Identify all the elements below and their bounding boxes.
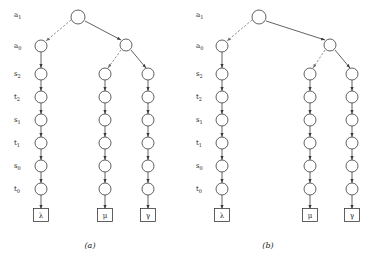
mid-chain-node-s2[interactable] bbox=[99, 68, 111, 80]
figure-container: λμγa1a0s2t2s1t1s0t0(a)λμγa1a0s2t2s1t1s0t… bbox=[0, 0, 372, 264]
row-label-s2: s2 bbox=[14, 70, 21, 79]
terminal-gamma[interactable]: γ bbox=[141, 209, 156, 222]
edge-right-a0-to-right bbox=[335, 50, 350, 68]
edge-right-a0-to-right bbox=[131, 50, 146, 68]
right-chain-node-s1[interactable] bbox=[346, 114, 358, 126]
right-a0-node[interactable] bbox=[324, 39, 336, 51]
mid-chain-node-t2[interactable] bbox=[99, 91, 111, 103]
terminal-mu[interactable]: μ bbox=[98, 209, 113, 222]
terminal-gamma-label: γ bbox=[146, 212, 150, 220]
row-label-t2: t2 bbox=[196, 93, 202, 102]
left-chain-node-t2[interactable] bbox=[216, 91, 228, 103]
terminal-gamma-label: γ bbox=[350, 212, 354, 220]
right-chain-node-t2[interactable] bbox=[142, 91, 154, 103]
terminal-gamma[interactable]: γ bbox=[345, 209, 360, 222]
row-label-t0: t0 bbox=[14, 185, 20, 194]
edge-root-to-right-a0 bbox=[85, 21, 121, 40]
left-chain-node-s1[interactable] bbox=[216, 114, 228, 126]
terminal-lambda-label: λ bbox=[39, 212, 44, 220]
edge-root-to-right-a0 bbox=[266, 21, 325, 40]
terminal-mu-label: μ bbox=[308, 212, 313, 220]
two-panel-tree-diagram: λμγa1a0s2t2s1t1s0t0(a)λμγa1a0s2t2s1t1s0t… bbox=[0, 0, 372, 264]
row-label-s0: s0 bbox=[196, 162, 203, 171]
left-chain-node-s2[interactable] bbox=[216, 68, 228, 80]
terminal-mu[interactable]: μ bbox=[303, 209, 318, 222]
right-chain-node-s1[interactable] bbox=[142, 114, 154, 126]
mid-chain-node-t1[interactable] bbox=[304, 137, 316, 149]
terminal-lambda[interactable]: λ bbox=[34, 209, 49, 222]
mid-chain-node-s2[interactable] bbox=[304, 68, 316, 80]
root-node[interactable] bbox=[252, 10, 266, 24]
right-chain-node-s0[interactable] bbox=[142, 160, 154, 172]
terminal-lambda[interactable]: λ bbox=[215, 209, 230, 222]
mid-chain-node-t0[interactable] bbox=[304, 183, 316, 195]
edge-root-to-left-a0 bbox=[46, 20, 71, 41]
edge-right-a0-to-mid bbox=[313, 50, 325, 68]
right-a0-node[interactable] bbox=[120, 39, 132, 51]
row-label-s2: s2 bbox=[196, 70, 203, 79]
panel-caption: (b) bbox=[262, 241, 273, 250]
row-label-a0: a0 bbox=[14, 42, 21, 51]
left-chain-node-t1[interactable] bbox=[216, 137, 228, 149]
right-chain-node-t0[interactable] bbox=[346, 183, 358, 195]
terminal-mu-label: μ bbox=[103, 212, 108, 220]
mid-chain-node-s0[interactable] bbox=[99, 160, 111, 172]
edge-right-a0-to-mid bbox=[108, 50, 121, 68]
left-chain-node-s0[interactable] bbox=[35, 160, 47, 172]
left-chain-node-t1[interactable] bbox=[35, 137, 47, 149]
left-chain-node-s2[interactable] bbox=[35, 68, 47, 80]
right-chain-node-t1[interactable] bbox=[346, 137, 358, 149]
right-chain-node-s2[interactable] bbox=[142, 68, 154, 80]
left-chain-node-t0[interactable] bbox=[216, 183, 228, 195]
right-chain-node-t2[interactable] bbox=[346, 91, 358, 103]
left-chain-node-t2[interactable] bbox=[35, 91, 47, 103]
row-label-s1: s1 bbox=[14, 116, 21, 125]
right-chain-node-t0[interactable] bbox=[142, 183, 154, 195]
root-node[interactable] bbox=[71, 10, 85, 24]
row-label-a1: a1 bbox=[14, 11, 21, 20]
mid-chain-node-s1[interactable] bbox=[304, 114, 316, 126]
mid-chain-node-s1[interactable] bbox=[99, 114, 111, 126]
panel-a: λμγa1a0s2t2s1t1s0t0(a) bbox=[14, 10, 156, 250]
row-label-t1: t1 bbox=[14, 139, 20, 148]
left-chain-node-t0[interactable] bbox=[35, 183, 47, 195]
right-chain-node-s2[interactable] bbox=[346, 68, 358, 80]
left-chain-node-s0[interactable] bbox=[216, 160, 228, 172]
left-chain-node-s1[interactable] bbox=[35, 114, 47, 126]
mid-chain-node-t1[interactable] bbox=[99, 137, 111, 149]
terminal-lambda-label: λ bbox=[220, 212, 225, 220]
row-label-t2: t2 bbox=[14, 93, 20, 102]
panel-caption: (a) bbox=[84, 241, 95, 250]
row-label-t1: t1 bbox=[196, 139, 202, 148]
row-label-a1: a1 bbox=[196, 11, 203, 20]
left-a0-node[interactable] bbox=[216, 40, 228, 52]
mid-chain-node-t0[interactable] bbox=[99, 183, 111, 195]
row-label-a0: a0 bbox=[196, 42, 203, 51]
mid-chain-node-s0[interactable] bbox=[304, 160, 316, 172]
edge-root-to-left-a0 bbox=[227, 20, 252, 41]
mid-chain-node-t2[interactable] bbox=[304, 91, 316, 103]
right-chain-node-t1[interactable] bbox=[142, 137, 154, 149]
right-chain-node-s0[interactable] bbox=[346, 160, 358, 172]
panel-b: λμγa1a0s2t2s1t1s0t0(b) bbox=[196, 10, 360, 250]
row-label-s1: s1 bbox=[196, 116, 203, 125]
row-label-t0: t0 bbox=[196, 185, 202, 194]
row-label-s0: s0 bbox=[14, 162, 21, 171]
left-a0-node[interactable] bbox=[35, 40, 47, 52]
